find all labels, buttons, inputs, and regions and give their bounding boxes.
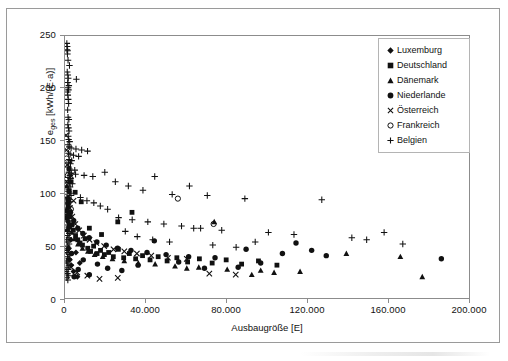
legend-item-belgien: Belgien: [384, 133, 465, 148]
legend: Luxemburg Deutschland Dänemark Niederlan…: [378, 38, 470, 153]
y-axis-title: eges [kWh/(E·a)]: [44, 17, 55, 187]
legend-label-luxemburg: Luxemburg: [397, 43, 442, 58]
legend-item-niederlande: Niederlande: [384, 88, 465, 103]
plus-marker-icon: [384, 137, 397, 144]
y-tick-label-100: 100: [16, 188, 56, 199]
x-tick-label-0: 0: [34, 304, 94, 315]
legend-item-daenemark: Dänemark: [384, 73, 465, 88]
circle-open-marker-icon: [384, 122, 397, 129]
legend-label-niederlande: Niederlande: [397, 88, 446, 103]
square-marker-icon: [384, 62, 397, 69]
y-tick-label-50: 50: [16, 241, 56, 252]
legend-label-daenemark: Dänemark: [397, 73, 439, 88]
y-axis-title-unit: [kWh/(E·a)]: [44, 68, 55, 119]
legend-item-luxemburg: Luxemburg: [384, 43, 465, 58]
diamond-marker-icon: [384, 47, 397, 54]
x-tick-label-200000: 200.000: [439, 304, 499, 315]
x-tick-label-120000: 120.000: [277, 304, 337, 315]
series-deutschland: [65, 167, 279, 268]
legend-item-deutschland: Deutschland: [384, 58, 465, 73]
legend-item-frankreich: Frankreich: [384, 118, 465, 133]
y-tick-label-250: 250: [16, 29, 56, 40]
x-tick-label-40000: 40.000: [115, 304, 175, 315]
x-tick-label-80000: 80.000: [196, 304, 256, 315]
legend-label-oesterreich: Österreich: [397, 103, 439, 118]
x-axis-title: Ausbaugröße [E]: [64, 322, 470, 333]
series-frankreich: [65, 156, 216, 227]
legend-label-deutschland: Deutschland: [397, 58, 447, 73]
figure-container: eges [kWh/(E·a)] 0 50 100 150 200 250 0 …: [0, 0, 508, 361]
y-axis-title-subscript: ges: [49, 119, 56, 130]
plot-area: Luxemburg Deutschland Dänemark Niederlan…: [64, 35, 470, 299]
series-niederlande: [65, 189, 444, 280]
circle-filled-marker-icon: [384, 92, 397, 99]
x-tick-label-160000: 160.000: [358, 304, 418, 315]
y-tick-label-150: 150: [16, 135, 56, 146]
cross-x-marker-icon: [384, 107, 397, 114]
legend-label-frankreich: Frankreich: [397, 118, 440, 133]
legend-label-belgien: Belgien: [397, 133, 427, 148]
legend-item-oesterreich: Österreich: [384, 103, 465, 118]
triangle-marker-icon: [384, 77, 397, 84]
page-edge-artifact: [300, 352, 490, 356]
y-tick-label-200: 200: [16, 82, 56, 93]
